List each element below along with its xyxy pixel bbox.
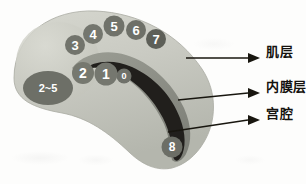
marker-label-2to5: 2~5	[39, 82, 58, 94]
marker-1: 1	[95, 63, 118, 86]
marker-label-6: 6	[132, 23, 139, 38]
arrowhead-endometrium	[248, 88, 260, 98]
arrowhead-myometrium	[248, 53, 260, 63]
marker-label-1: 1	[102, 66, 110, 82]
callout-label-cavity: 宫腔	[266, 107, 293, 120]
callout-label-myometrium: 肌层	[266, 45, 293, 58]
marker-3: 3	[65, 35, 85, 55]
marker-label-3: 3	[71, 38, 78, 53]
marker-6: 6	[126, 20, 146, 40]
marker-2: 2	[72, 62, 94, 84]
marker-label-4: 4	[89, 27, 97, 42]
marker-label-8: 8	[169, 140, 176, 154]
callout-arrowheads	[248, 53, 260, 125]
marker-2to5: 2~5	[23, 71, 73, 105]
marker-label-7: 7	[152, 32, 159, 47]
uterus-diagram-svg: 2~5 0 1 2 3 4 5 6	[0, 0, 306, 184]
marker-7: 7	[146, 29, 166, 49]
marker-label-5: 5	[110, 19, 117, 34]
callout-label-endometrium: 内膜层	[266, 80, 306, 93]
marker-4: 4	[83, 24, 103, 44]
marker-label-0: 0	[121, 71, 126, 81]
marker-5: 5	[104, 16, 125, 37]
marker-0: 0	[117, 69, 132, 84]
arrowhead-cavity	[248, 115, 260, 125]
marker-label-2: 2	[79, 65, 87, 81]
diagram-canvas: 2~5 0 1 2 3 4 5 6	[0, 0, 306, 184]
marker-8: 8	[162, 137, 183, 158]
